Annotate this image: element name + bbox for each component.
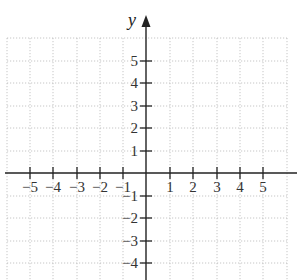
- grid: [7, 38, 287, 280]
- x-tick-label: 4: [236, 179, 244, 195]
- y-tick-label: −1: [122, 188, 138, 204]
- y-axis-label: y: [126, 10, 136, 30]
- x-tick-label: −4: [45, 179, 61, 195]
- y-tick-label: 2: [131, 120, 139, 136]
- x-tick-labels: −5 −4 −3 −2 −1 1 2 3 4 5: [22, 179, 267, 195]
- y-tick-label: −2: [122, 210, 138, 226]
- x-tick-label: 5: [259, 179, 267, 195]
- x-tick-label: 3: [213, 179, 221, 195]
- x-tick-label: 1: [166, 179, 174, 195]
- x-tick-label: −5: [22, 179, 38, 195]
- y-tick-label: −4: [122, 255, 138, 271]
- y-tick-labels: 5 4 3 2 1 −1 −2 −3 −4: [122, 53, 138, 271]
- x-tick-label: 2: [189, 179, 197, 195]
- y-axis-arrow-icon: [142, 15, 151, 27]
- y-tick-label: 3: [131, 98, 139, 114]
- x-tick-label: −2: [92, 179, 108, 195]
- coordinate-plane: y −5 −4 −3 −2 −1 1 2 3 4 5 5 4 3 2 1 −1 …: [0, 0, 297, 280]
- x-tick-label: −3: [69, 179, 85, 195]
- y-tick-label: 4: [131, 75, 139, 91]
- y-tick-label: −3: [122, 233, 138, 249]
- y-tick-label: 1: [131, 143, 139, 159]
- y-tick-label: 5: [131, 53, 139, 69]
